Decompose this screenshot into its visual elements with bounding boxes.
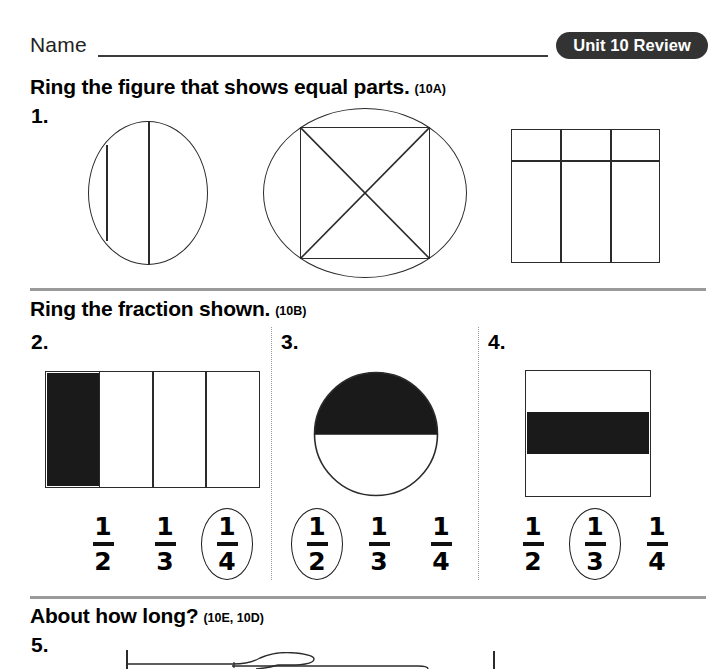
divider-1: [99, 371, 101, 488]
numerator: 1: [586, 514, 603, 539]
section-standard-code: (10B): [275, 304, 306, 318]
fraction-choice[interactable]: 1 4: [634, 513, 680, 575]
choices-problem-4: 1 2 1 3 1 4: [510, 513, 680, 575]
shaded-part: [47, 373, 99, 487]
divider-vertical-1: [560, 129, 562, 263]
fraction-choice[interactable]: 1 4: [418, 513, 464, 575]
numerator: 1: [648, 514, 665, 539]
denominator: 4: [432, 549, 449, 574]
denominator: 4: [648, 549, 665, 574]
column-divider-1: [271, 327, 272, 580]
divider-horizontal: [511, 160, 660, 162]
fraction-choice-ringed[interactable]: 1 3: [572, 513, 618, 575]
worksheet-page: Name Unit 10 Review Ring the figure that…: [0, 0, 722, 669]
denominator: 2: [308, 549, 325, 574]
section-divider-rule-2: [30, 596, 706, 599]
figure-circle-two-chords[interactable]: [88, 121, 208, 265]
denominator: 2: [524, 549, 541, 574]
numerator: 1: [524, 514, 541, 539]
divider-vertical-2: [610, 129, 612, 263]
problem-number-5: 5.: [31, 633, 49, 657]
denominator: 3: [370, 549, 387, 574]
section-divider-rule-1: [30, 288, 706, 291]
section-standard-code: (10A): [415, 82, 446, 96]
section-heading-about-how-long: About how long?(10E, 10D): [30, 604, 264, 628]
fraction-bar: [431, 542, 452, 546]
shaded-part: [527, 412, 650, 454]
divider-2: [152, 371, 154, 488]
chord-left: [106, 145, 108, 241]
fraction-bar: [585, 542, 606, 546]
section-heading-text: Ring the figure that shows equal parts.: [30, 75, 410, 98]
numerator: 1: [94, 514, 111, 539]
section-heading-ring-fraction: Ring the fraction shown.(10B): [30, 297, 306, 321]
section-heading-text: About how long?: [30, 604, 198, 627]
fraction-choice[interactable]: 1 3: [142, 513, 188, 575]
measure-tick-right: [493, 651, 495, 669]
half-shaded-circle-icon: [313, 371, 439, 497]
numerator: 1: [370, 514, 387, 539]
figure-circle-half-shaded[interactable]: [313, 371, 439, 497]
name-label: Name: [30, 33, 87, 57]
numerator: 1: [156, 514, 173, 539]
numerator: 1: [218, 514, 235, 539]
choices-problem-3: 1 2 1 3 1 4: [294, 513, 464, 575]
denominator: 3: [156, 549, 173, 574]
figure-rectangle-six-parts[interactable]: [511, 129, 660, 263]
square-diagonals-icon: [300, 127, 430, 259]
fraction-bar: [523, 542, 544, 546]
column-divider-2: [478, 327, 479, 580]
fraction-bar: [93, 542, 114, 546]
problem-number-4: 4.: [488, 330, 506, 354]
fraction-bar: [307, 542, 328, 546]
fraction-choice[interactable]: 1 3: [356, 513, 402, 575]
fraction-choice[interactable]: 1 2: [510, 513, 556, 575]
choices-problem-2: 1 2 1 3 1 4: [80, 513, 250, 575]
problem-number-1: 1.: [31, 104, 49, 128]
fraction-choice[interactable]: 1 2: [80, 513, 126, 575]
fraction-bar: [217, 542, 238, 546]
divider-3: [205, 371, 207, 488]
name-write-line[interactable]: [98, 55, 548, 57]
denominator: 3: [586, 549, 603, 574]
fraction-choice-ringed[interactable]: 1 2: [294, 513, 340, 575]
section-heading-equal-parts: Ring the figure that shows equal parts.(…: [30, 75, 446, 99]
rectangle-outline: [511, 129, 660, 263]
figure-circle-inscribed-square-x[interactable]: [263, 108, 467, 278]
fraction-bar: [647, 542, 668, 546]
problem-number-3: 3.: [281, 330, 299, 354]
figure-square-thirds-middle-shaded[interactable]: [525, 370, 651, 497]
section-heading-text: Ring the fraction shown.: [30, 297, 270, 320]
denominator: 2: [94, 549, 111, 574]
figure-bar-fourths-one-shaded[interactable]: [45, 371, 260, 488]
section-standard-code: (10E, 10D): [203, 611, 263, 625]
numerator: 1: [432, 514, 449, 539]
chord-center: [148, 121, 150, 265]
knife-outline-icon: [128, 652, 468, 669]
denominator: 4: [218, 549, 235, 574]
fraction-choice-ringed[interactable]: 1 4: [204, 513, 250, 575]
fraction-bar: [155, 542, 176, 546]
problem-number-2: 2.: [31, 330, 49, 354]
numerator: 1: [308, 514, 325, 539]
unit-review-badge: Unit 10 Review: [556, 32, 708, 59]
fraction-bar: [369, 542, 390, 546]
